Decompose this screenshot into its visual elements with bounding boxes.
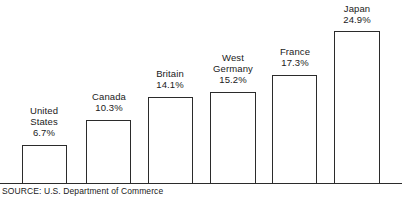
bar-france: [272, 75, 317, 184]
bar-chart: United States 6.7% Canada 10.3% Britain …: [0, 0, 402, 197]
x-axis-baseline: [0, 183, 402, 184]
bar-label-united-states: United States 6.7%: [8, 105, 80, 138]
bar-label-japan: Japan 24.9%: [321, 3, 393, 25]
plot-area: United States 6.7% Canada 10.3% Britain …: [0, 0, 402, 184]
bar-label-france: France 17.3%: [259, 46, 331, 68]
bar-west-germany: [210, 92, 256, 184]
bar-united-states: [22, 145, 67, 184]
bar-britain: [148, 97, 193, 184]
bar-japan: [334, 31, 380, 184]
bar-label-canada: Canada 10.3%: [73, 91, 145, 113]
bar-canada: [86, 120, 131, 184]
source-note: SOURCE: U.S. Department of Commerce: [2, 186, 163, 196]
bar-label-britain: Britain 14.1%: [134, 68, 206, 90]
